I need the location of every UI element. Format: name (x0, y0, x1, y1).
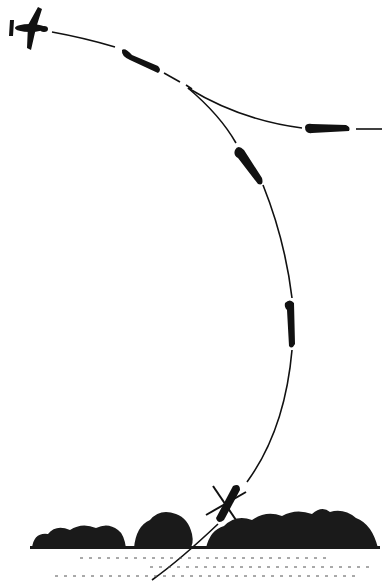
plane-crash-icon (206, 485, 246, 522)
dive-path-1 (188, 88, 236, 143)
maneuver-diagram (0, 0, 392, 588)
fighter-top-left-icon (9, 7, 48, 50)
plane-pos-3-icon (285, 301, 295, 348)
plane-pos-2-icon (234, 147, 262, 184)
plane-breakoff-icon (305, 124, 350, 133)
breakoff-path (188, 88, 302, 128)
dive-path-2 (263, 185, 292, 298)
treeline-icon (30, 509, 380, 549)
path-segment-1 (52, 32, 115, 47)
flight-paths (52, 32, 382, 580)
dive-path-3 (247, 350, 292, 482)
ground-marks (55, 558, 370, 576)
plane-pos-1-icon (122, 49, 160, 73)
path-segment-2 (164, 73, 180, 82)
